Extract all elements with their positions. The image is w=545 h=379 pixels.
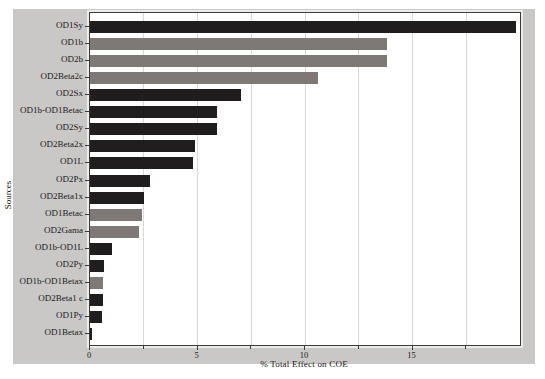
y-tick-mark (85, 282, 89, 283)
y-axis-category-label: OD2b (0, 54, 83, 64)
y-axis-category-label: OD1b-OD1Betac (0, 105, 83, 115)
bar (90, 21, 516, 33)
bar (90, 311, 102, 323)
y-axis-category-label: OD1Py (0, 310, 83, 320)
page: OD1SyOD1bOD2bOD2Beta2cOD2SxOD1b-OD1Betac… (0, 0, 545, 379)
bar (90, 294, 103, 306)
x-tick-mark-minor (358, 346, 359, 349)
gridline (412, 13, 413, 345)
bar (90, 243, 112, 255)
bar (90, 226, 139, 238)
y-tick-mark (85, 60, 89, 61)
y-tick-mark (85, 231, 89, 232)
y-tick-mark (85, 248, 89, 249)
y-tick-mark (85, 94, 89, 95)
bar (90, 157, 193, 169)
x-tick-mark-minor (465, 346, 466, 349)
bar (90, 38, 387, 50)
y-tick-mark (85, 299, 89, 300)
y-axis-category-label: OD1b-OD1Betax (0, 276, 83, 286)
bar (90, 55, 387, 67)
y-tick-mark (85, 145, 89, 146)
y-tick-mark (85, 214, 89, 215)
y-axis-category-label: OD1Sy (0, 20, 83, 30)
bar (90, 72, 318, 84)
y-tick-mark (85, 43, 89, 44)
bar (90, 123, 217, 135)
x-tick-mark-minor (250, 346, 251, 349)
y-tick-mark (85, 26, 89, 27)
plot-area (89, 12, 521, 346)
y-tick-mark (85, 128, 89, 129)
y-axis-category-label: OD1b (0, 37, 83, 47)
bar (90, 140, 195, 152)
y-tick-mark (85, 162, 89, 163)
y-tick-mark (85, 180, 89, 181)
gridline (466, 13, 467, 345)
y-axis-category-label: OD1b-OD1L (0, 242, 83, 252)
bar (90, 89, 241, 101)
y-axis-category-label: OD2Beta1 c (0, 293, 83, 303)
bar (90, 260, 104, 272)
bar (90, 209, 142, 221)
y-axis-category-label: OD2Beta2x (0, 139, 83, 149)
y-axis-category-label: OD2Sx (0, 88, 83, 98)
y-tick-mark (85, 111, 89, 112)
bar (90, 328, 92, 340)
bar (90, 277, 103, 289)
bar (90, 175, 150, 187)
y-tick-mark (85, 316, 89, 317)
y-tick-mark (85, 333, 89, 334)
y-axis-title: Sources (3, 155, 17, 235)
y-tick-mark (85, 77, 89, 78)
x-tick-mark-minor (143, 346, 144, 349)
bar (90, 106, 217, 118)
y-axis-category-label: OD2Sy (0, 122, 83, 132)
y-tick-mark (85, 265, 89, 266)
y-tick-mark (85, 197, 89, 198)
y-axis-category-label: OD2Beta2c (0, 71, 83, 81)
x-axis-title: % Total Effect on COE (89, 359, 519, 369)
y-axis-category-label: OD2Py (0, 259, 83, 269)
bar (90, 192, 144, 204)
y-axis-category-label: OD1Betax (0, 327, 83, 337)
